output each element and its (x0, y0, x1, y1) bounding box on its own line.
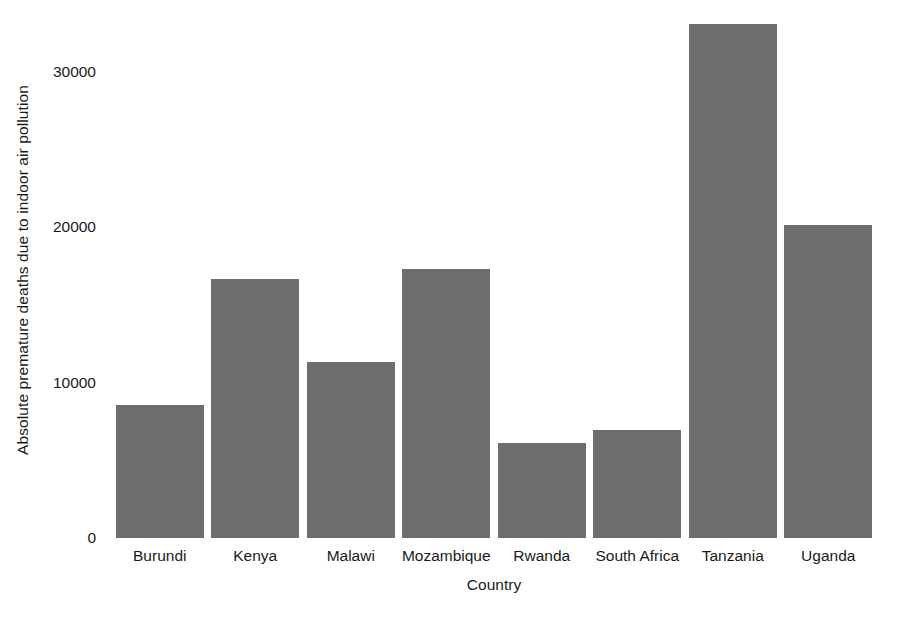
y-axis-tick-label: 10000 (0, 375, 108, 391)
bar-group (116, 10, 204, 538)
x-axis-tick-labels: BurundiKenyaMalawiMozambiqueRwandaSouth … (112, 546, 876, 572)
y-axis-tick-label: 30000 (0, 64, 108, 80)
bar[interactable] (593, 430, 681, 538)
bar[interactable] (784, 225, 872, 538)
bar[interactable] (307, 362, 395, 538)
x-axis-title: Country (112, 576, 876, 594)
y-axis-tick-label: 0 (0, 530, 108, 546)
x-axis-tick-label: South Africa (590, 546, 686, 566)
x-axis-tick-label: Malawi (303, 546, 399, 566)
y-axis-tick-labels: 0100002000030000 (0, 0, 108, 632)
bar-group (689, 10, 777, 538)
bar-group (307, 10, 395, 538)
x-axis-tick-label: Mozambique (399, 546, 495, 566)
bar[interactable] (402, 269, 490, 538)
x-axis-tick-label: Kenya (208, 546, 304, 566)
plot-area (112, 10, 876, 538)
bar-chart-figure: Absolute premature deaths due to indoor … (0, 0, 898, 632)
bar[interactable] (689, 24, 777, 538)
x-axis-tick-label: Burundi (112, 546, 208, 566)
y-axis-tick-label: 20000 (0, 219, 108, 235)
bar[interactable] (211, 279, 299, 538)
bar-group (784, 10, 872, 538)
x-axis-tick-label: Uganda (781, 546, 877, 566)
x-axis-tick-label: Rwanda (494, 546, 590, 566)
bar-group (211, 10, 299, 538)
bar-group (402, 10, 490, 538)
bar[interactable] (116, 405, 204, 538)
bar-group (498, 10, 586, 538)
bar[interactable] (498, 443, 586, 538)
bar-group (593, 10, 681, 538)
x-axis-tick-label: Tanzania (685, 546, 781, 566)
